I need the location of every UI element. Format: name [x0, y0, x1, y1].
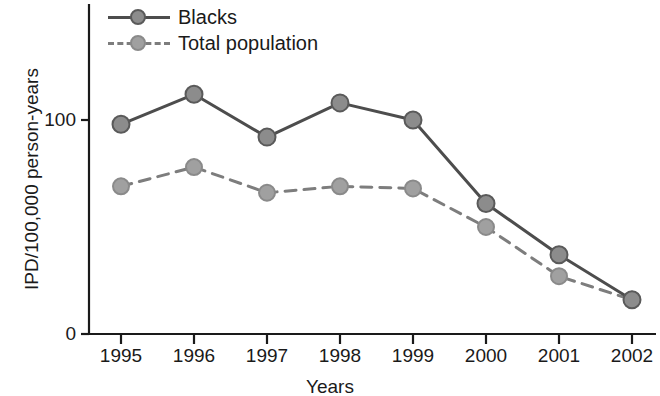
x-tick-label-1999: 1999	[392, 345, 434, 367]
x-tick-label-1998: 1998	[319, 345, 361, 367]
x-tick-label-2000: 2000	[465, 345, 507, 367]
legend-key-total-population	[108, 33, 170, 53]
chart-container: IPD/100,000 person-years 100 0 1	[0, 0, 660, 396]
data-point-marker	[259, 129, 276, 146]
data-point-marker	[332, 94, 349, 111]
x-tick-label-2002: 2002	[611, 345, 653, 367]
x-tick-label-2001: 2001	[538, 345, 580, 367]
data-point-marker	[551, 268, 567, 284]
x-ticks	[121, 334, 632, 344]
data-point-marker	[113, 116, 130, 133]
legend-marker-circle-light-icon	[130, 35, 146, 51]
data-point-marker	[113, 178, 129, 194]
legend-label-blacks: Blacks	[178, 6, 237, 29]
legend-item-total-population: Total population	[108, 30, 368, 56]
legend-item-blacks: Blacks	[108, 4, 368, 30]
data-point-marker	[332, 178, 348, 194]
data-point-marker	[259, 185, 275, 201]
chart-legend: Blacks Total population	[108, 4, 368, 56]
x-axis-tick-labels: 1995 1996 1997 1998 1999 2000 2001 2002	[0, 345, 660, 375]
data-point-marker	[478, 219, 494, 235]
x-tick-label-1997: 1997	[246, 345, 288, 367]
data-point-marker	[551, 246, 568, 263]
data-point-marker	[186, 159, 202, 175]
data-point-marker	[478, 195, 495, 212]
x-axis-title: Years	[0, 376, 660, 396]
data-point-marker	[624, 291, 641, 308]
legend-key-blacks	[108, 7, 170, 27]
data-point-marker	[405, 112, 422, 129]
plot-area	[0, 0, 660, 396]
x-tick-label-1996: 1996	[173, 345, 215, 367]
legend-marker-circle-icon	[130, 9, 146, 25]
series-total-population-markers	[113, 159, 640, 308]
data-point-marker	[405, 180, 421, 196]
data-point-marker	[186, 86, 203, 103]
x-tick-label-1995: 1995	[100, 345, 142, 367]
legend-label-total-population: Total population	[178, 32, 318, 55]
